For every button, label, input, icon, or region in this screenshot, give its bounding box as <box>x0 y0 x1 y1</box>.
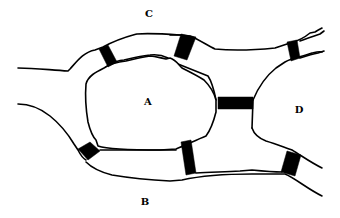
bridge-3 <box>287 40 300 61</box>
bridge-5 <box>78 142 100 160</box>
bridge-7 <box>281 151 301 176</box>
region-label-b: B <box>141 197 149 207</box>
region-label-a: A <box>144 97 152 107</box>
river-lower-b-edge <box>196 170 282 173</box>
west-bank-upper <box>18 104 86 160</box>
region-label-c: C <box>145 9 153 19</box>
bridge-6 <box>181 140 196 175</box>
bridge-1 <box>99 45 117 67</box>
east-channel-lower-a <box>300 51 324 58</box>
bridge-4 <box>218 97 253 109</box>
island-d-north-edge <box>253 52 322 100</box>
region-label-d: D <box>295 105 304 115</box>
diagram-drawing <box>0 0 340 218</box>
konigsberg-bridges-diagram: C A D B <box>0 0 340 218</box>
bridge-2 <box>174 34 196 60</box>
